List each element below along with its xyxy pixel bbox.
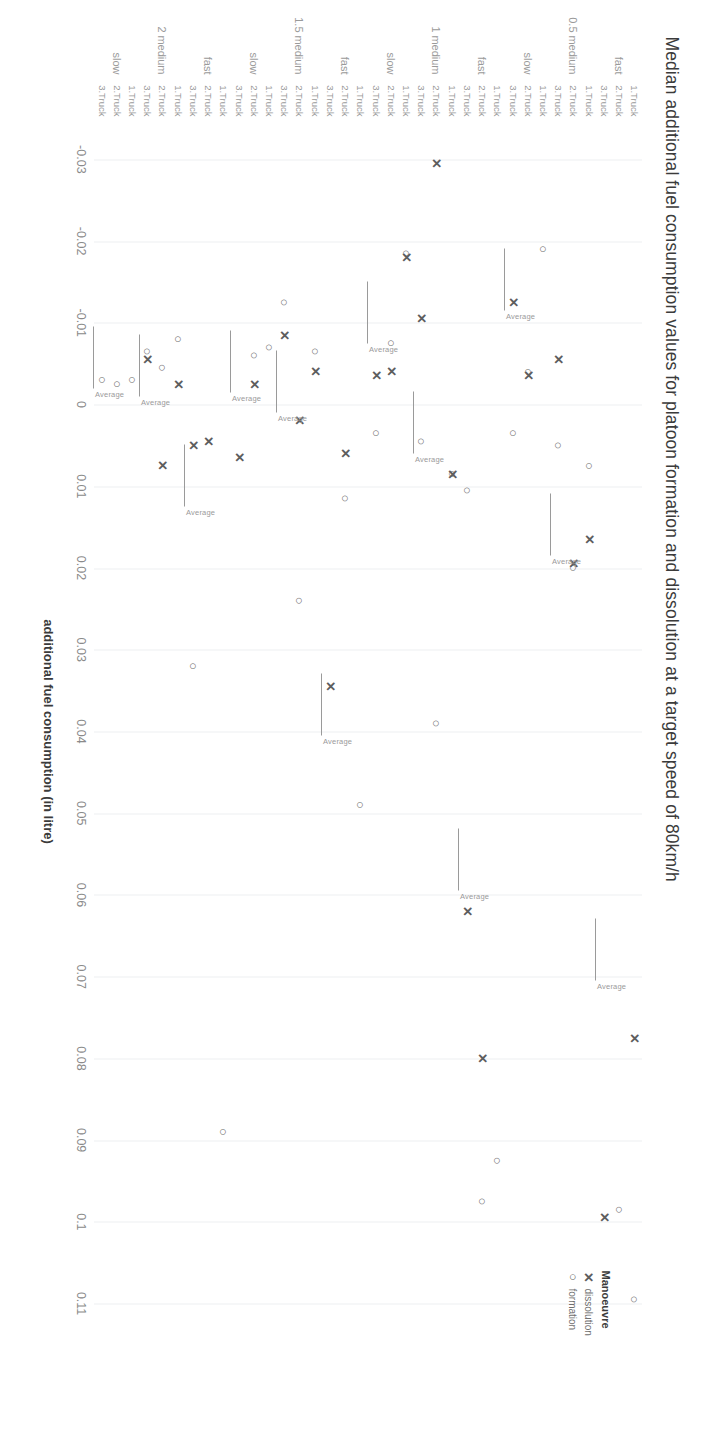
data-point-dissolution: ✕ xyxy=(171,378,184,389)
y-group-label-speed: fast xyxy=(476,56,488,74)
average-line xyxy=(93,326,94,388)
y-tick-label-truck: 3.Truck xyxy=(96,85,107,116)
y-group-label-speed: medium xyxy=(431,35,443,74)
legend-item-label: formation xyxy=(568,1288,579,1330)
data-point-formation: ○ xyxy=(263,343,276,351)
data-point-formation: ○ xyxy=(476,1197,489,1205)
legend-item[interactable]: ✕dissolution xyxy=(581,1270,596,1410)
data-point-dissolution: ✕ xyxy=(522,370,535,381)
data-point-formation: ○ xyxy=(552,441,565,449)
y-group-label-speed: slow xyxy=(248,52,260,74)
y-tick-label-truck: 2.Truck xyxy=(248,85,259,116)
y-tick-label-truck: 3.Truck xyxy=(187,85,198,116)
y-group-label-speed: slow xyxy=(385,52,397,74)
data-point-formation: ○ xyxy=(156,363,169,371)
data-point-formation: ○ xyxy=(354,801,367,809)
legend-item[interactable]: ○formation xyxy=(566,1270,580,1410)
data-point-formation: ○ xyxy=(278,298,291,306)
gridline xyxy=(94,322,642,323)
data-point-formation: ○ xyxy=(339,494,352,502)
gridline xyxy=(94,1058,642,1059)
average-label: Average xyxy=(141,397,170,406)
y-group-label-distance: 2 xyxy=(157,26,169,32)
x-tick-label: 0.05 xyxy=(74,801,88,825)
data-point-dissolution: ✕ xyxy=(278,329,291,340)
data-point-dissolution: ✕ xyxy=(582,533,595,544)
circle-icon: ○ xyxy=(566,1270,580,1283)
x-axis-title: additional fuel consumption (in litre) xyxy=(41,118,56,1344)
y-tick-label-truck: 3.Truck xyxy=(324,85,335,116)
average-line xyxy=(504,248,505,310)
y-group-label-speed: fast xyxy=(202,56,214,74)
average-line xyxy=(595,918,596,980)
average-line xyxy=(458,828,459,890)
y-tick-label-truck: 2.Truck xyxy=(522,85,533,116)
y-tick-label-truck: 3.Truck xyxy=(370,85,381,116)
x-tick-label: 0.11 xyxy=(74,1291,88,1314)
data-point-formation: ○ xyxy=(613,1205,626,1213)
data-point-formation: ○ xyxy=(293,596,306,604)
y-tick-label-truck: 3.Truck xyxy=(598,85,609,116)
x-tick-label: 0.09 xyxy=(74,1127,88,1151)
y-tick-label-truck: 3.Truck xyxy=(553,85,564,116)
average-label: Average xyxy=(323,736,352,745)
gridline xyxy=(94,241,642,242)
y-tick-label-truck: 2.Truck xyxy=(203,85,214,116)
data-point-dissolution: ✕ xyxy=(552,354,565,365)
gridline xyxy=(94,1303,642,1304)
x-tick-label: 0.08 xyxy=(74,1046,88,1070)
x-tick-label: 0.02 xyxy=(74,555,88,579)
y-tick-label-truck: 2.Truck xyxy=(568,85,579,116)
y-tick-label-truck: 2.Truck xyxy=(385,85,396,116)
data-point-dissolution: ✕ xyxy=(415,313,428,324)
gridline xyxy=(94,404,642,405)
data-point-dissolution: ✕ xyxy=(628,1032,641,1043)
y-tick-label-truck: 1.Truck xyxy=(583,85,594,116)
gridline xyxy=(94,159,642,160)
data-point-formation: ○ xyxy=(582,461,595,469)
data-point-dissolution: ✕ xyxy=(202,435,215,446)
y-tick-label-truck: 3.Truck xyxy=(507,85,518,116)
y-tick-label-truck: 1.Truck xyxy=(309,85,320,116)
y-tick-label-truck: 1.Truck xyxy=(538,85,549,116)
page-title: Median additional fuel consumption value… xyxy=(661,36,682,881)
average-label: Average xyxy=(415,454,444,463)
data-point-formation: ○ xyxy=(308,347,321,355)
y-tick-label-truck: 2.Truck xyxy=(431,85,442,116)
data-point-formation: ○ xyxy=(110,380,123,388)
data-point-dissolution: ✕ xyxy=(476,1052,489,1063)
average-line xyxy=(367,281,368,343)
average-label: Average xyxy=(552,556,581,565)
data-point-formation: ○ xyxy=(491,1156,504,1164)
y-group-label-speed: medium xyxy=(157,35,169,74)
data-point-dissolution: ✕ xyxy=(385,366,398,377)
x-tick-label: 0 xyxy=(74,401,88,408)
data-point-dissolution: ✕ xyxy=(369,370,382,381)
y-tick-label-truck: 2.Truck xyxy=(477,85,488,116)
legend-title: Manoeuvre xyxy=(600,1270,612,1410)
data-point-formation: ○ xyxy=(217,1128,230,1136)
data-point-formation: ○ xyxy=(95,376,108,384)
average-label: Average xyxy=(232,393,261,402)
y-group-label-speed: medium xyxy=(568,35,580,74)
average-line xyxy=(276,350,277,412)
y-tick-label-truck: 2.Truck xyxy=(614,85,625,116)
data-point-dissolution: ✕ xyxy=(506,296,519,307)
y-group-label-speed: medium xyxy=(294,35,306,74)
data-point-formation: ○ xyxy=(126,376,139,384)
y-tick-label-truck: 3.Truck xyxy=(279,85,290,116)
average-line xyxy=(230,330,231,392)
y-group-label-distance: 1.5 xyxy=(294,17,306,32)
average-line xyxy=(139,334,140,396)
data-point-dissolution: ✕ xyxy=(248,378,261,389)
data-point-formation: ○ xyxy=(415,437,428,445)
chart-canvas: Median additional fuel consumption value… xyxy=(0,0,704,1433)
average-label: Average xyxy=(597,981,626,990)
data-point-dissolution: ✕ xyxy=(445,468,458,479)
y-tick-label-truck: 1.Truck xyxy=(127,85,138,116)
data-point-formation: ○ xyxy=(171,335,184,343)
data-point-formation: ○ xyxy=(460,486,473,494)
gridline xyxy=(94,894,642,895)
x-tick-label: 0.07 xyxy=(74,964,88,988)
data-point-dissolution: ✕ xyxy=(324,681,337,692)
